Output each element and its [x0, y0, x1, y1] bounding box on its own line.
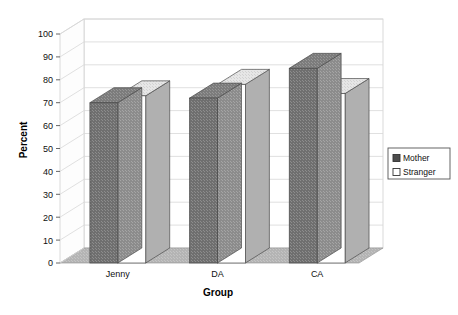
x-axis-title: Group [203, 287, 233, 298]
bar-column [190, 83, 242, 263]
y-axis-tick-label: 70 [43, 98, 53, 108]
x-axis-category-label: CA [311, 269, 324, 279]
legend[interactable]: MotherStranger [388, 148, 450, 179]
x-axis-category-label: Jenny [106, 269, 131, 279]
legend-item-label: Mother [403, 153, 430, 163]
x-axis-category-label: DA [211, 269, 224, 279]
chart-canvas: 0102030405060708090100 JennyDACA Group P… [0, 0, 458, 315]
y-axis-tick-label: 20 [43, 213, 53, 223]
legend-item-label: Stranger [403, 167, 436, 177]
y-axis-tick-label: 90 [43, 52, 53, 62]
empty-square-icon [393, 169, 400, 176]
y-axis-tick-label: 10 [43, 236, 53, 246]
y-axis-tick-label: 80 [43, 75, 53, 85]
bar-column [289, 53, 341, 263]
y-axis-tick-label: 60 [43, 121, 53, 131]
y-axis-tick-label: 100 [38, 29, 53, 39]
y-axis-tick-label: 30 [43, 190, 53, 200]
y-axis-tick-label: 0 [48, 258, 53, 268]
y-axis-tick-label: 50 [43, 144, 53, 154]
bar-column [90, 88, 142, 263]
y-axis-title: Percent [18, 121, 29, 158]
bar-chart-figure: 0102030405060708090100 JennyDACA Group P… [0, 0, 458, 315]
filled-square-icon [393, 155, 400, 162]
y-axis-tick-label: 40 [43, 167, 53, 177]
